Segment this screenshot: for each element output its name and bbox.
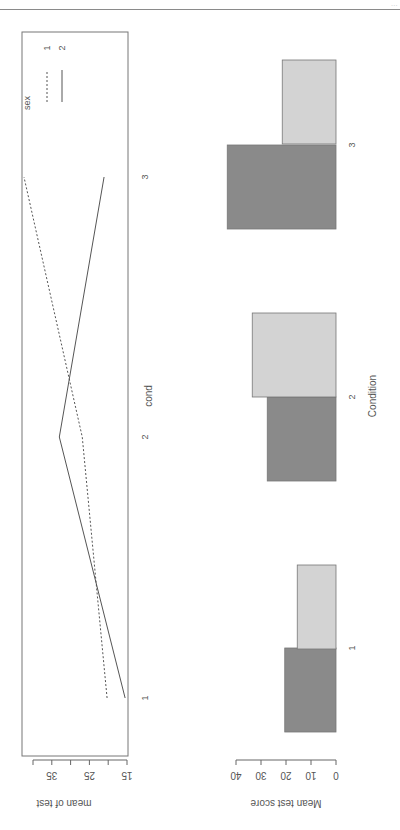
series-line-sex-2 <box>59 177 125 698</box>
axis-tick-label: 10 <box>305 770 317 781</box>
line-chart-value-axis-label: mean of test <box>36 798 91 809</box>
bar-cond-2-sex-1 <box>267 397 336 481</box>
axis-tick-label: 0 <box>333 770 339 781</box>
category-label: 3 <box>347 142 357 147</box>
axis-tick-label: 30 <box>255 770 267 781</box>
line-chart-value-axis: 152535 <box>33 760 133 781</box>
series-line-sex-1 <box>24 177 107 698</box>
category-label: 1 <box>347 645 357 650</box>
line-chart: 152535 123 sex12 mean of test cond <box>22 32 154 809</box>
rotated-figure: 152535 123 sex12 mean of test cond 01020… <box>0 0 400 830</box>
category-label: 1 <box>140 695 150 700</box>
axis-tick-label: 20 <box>280 770 292 781</box>
bar-cond-3-sex-1 <box>227 145 336 229</box>
axis-tick-label: 35 <box>46 770 58 781</box>
bar-cond-3-sex-2 <box>282 60 336 144</box>
bar-chart: 010203040 123 Mean test score Condition <box>227 60 378 809</box>
legend-title: sex <box>22 95 32 110</box>
line-chart-category-axis: 123 <box>140 174 150 700</box>
bar-chart-category-axis-label: Condition <box>367 375 378 417</box>
bar-chart-value-axis: 010203040 <box>230 760 339 781</box>
bar-chart-bars <box>227 60 336 732</box>
axis-tick-label: 15 <box>121 770 133 781</box>
legend-label: 1 <box>42 45 52 50</box>
bar-chart-category-axis: 123 <box>347 142 357 650</box>
axis-tick-label: 40 <box>230 770 242 781</box>
bar-chart-value-axis-label: Mean test score <box>250 798 322 809</box>
line-chart-legend: sex12 <box>22 45 67 110</box>
axis-tick-label: 25 <box>83 770 95 781</box>
category-label: 3 <box>140 174 150 179</box>
legend-label: 2 <box>57 45 67 50</box>
line-chart-series <box>24 177 125 698</box>
category-label: 2 <box>140 434 150 439</box>
bar-cond-2-sex-2 <box>252 313 336 397</box>
bar-cond-1-sex-1 <box>285 648 336 732</box>
category-label: 2 <box>347 394 357 399</box>
bar-cond-1-sex-2 <box>297 565 336 649</box>
line-chart-category-axis-label: cond <box>143 385 154 407</box>
